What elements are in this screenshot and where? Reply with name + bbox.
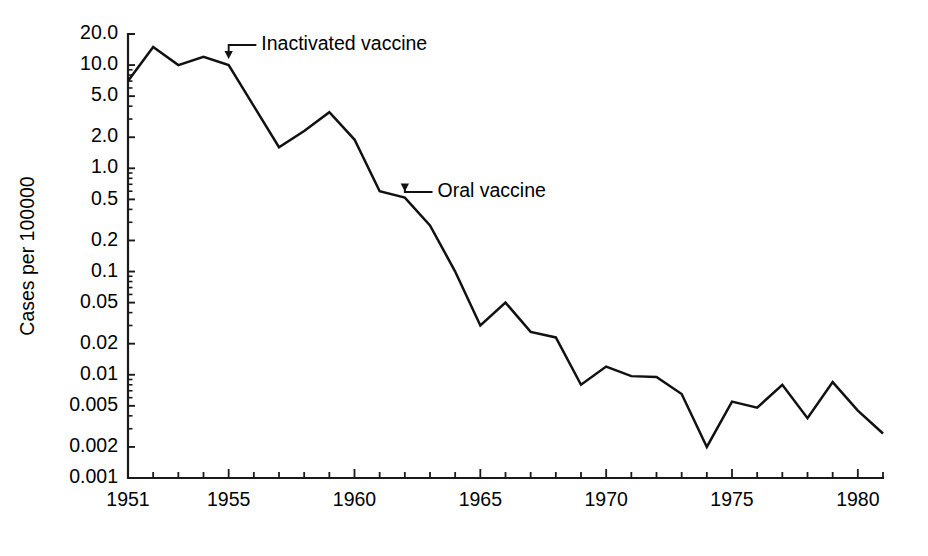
y-axis-tick-label: 0.1 bbox=[91, 259, 118, 281]
x-axis-tick-label: 1965 bbox=[459, 488, 503, 510]
y-axis-tick-label: 5.0 bbox=[91, 83, 118, 105]
y-axis-tick-label: 0.02 bbox=[80, 331, 118, 353]
y-axis-tick-label: 0.001 bbox=[69, 465, 118, 487]
y-axis-tick-label: 0.2 bbox=[91, 228, 118, 250]
y-axis-tick-label: 10.0 bbox=[80, 52, 118, 74]
x-axis-tick-label: 1960 bbox=[333, 488, 377, 510]
chart-figure: 20.010.05.02.01.00.50.20.10.050.020.010.… bbox=[0, 0, 928, 556]
x-axis-tick-label: 1980 bbox=[836, 488, 880, 510]
x-axis-tick-label: 1955 bbox=[207, 488, 251, 510]
x-axis-tick-label: 1975 bbox=[710, 488, 754, 510]
y-axis-tick-label: 0.005 bbox=[69, 393, 118, 415]
x-axis-tick-label: 1951 bbox=[106, 488, 149, 510]
y-axis-title: Cases per 100000 bbox=[16, 176, 38, 336]
annotation-label-text: Oral vaccine bbox=[438, 179, 546, 201]
y-axis-tick-label: 20.0 bbox=[80, 21, 118, 43]
chart-background bbox=[0, 0, 928, 556]
y-axis-tick-label: 2.0 bbox=[91, 124, 118, 146]
y-axis-tick-label: 0.05 bbox=[80, 290, 118, 312]
annotation-label-text: Inactivated vaccine bbox=[261, 32, 427, 54]
poliomyelitis-incidence-line-chart: 20.010.05.02.01.00.50.20.10.050.020.010.… bbox=[0, 0, 928, 556]
y-axis-title-text: Cases per 100000 bbox=[16, 176, 38, 336]
y-axis-tick-label: 1.0 bbox=[91, 155, 118, 177]
y-axis-tick-label: 0.002 bbox=[69, 434, 118, 456]
y-axis-tick-label: 0.5 bbox=[91, 187, 118, 209]
x-axis-tick-label: 1970 bbox=[584, 488, 628, 510]
y-axis-tick-label: 0.01 bbox=[80, 362, 118, 384]
